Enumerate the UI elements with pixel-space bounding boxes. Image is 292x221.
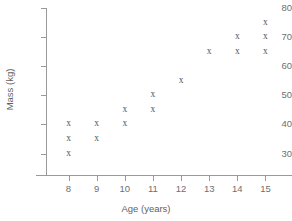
x-tick-14: [237, 176, 238, 181]
data-point: x: [148, 104, 158, 115]
data-point: x: [120, 118, 130, 129]
x-tick-13: [209, 176, 210, 181]
y-tick-label-30: 30: [258, 149, 292, 159]
y-tick-label-40: 40: [258, 119, 292, 129]
data-point: x: [260, 31, 270, 42]
x-axis-title: Age (years): [0, 203, 292, 214]
data-point: x: [232, 31, 242, 42]
y-tick-40: [41, 124, 46, 125]
x-tick-label-8: 8: [58, 183, 80, 194]
x-axis-line: [36, 175, 292, 176]
y-tick-60: [41, 66, 46, 67]
x-tick-12: [181, 176, 182, 181]
x-tick-10: [125, 176, 126, 181]
x-tick-label-11: 11: [142, 183, 164, 194]
x-tick-label-9: 9: [86, 183, 108, 194]
data-point: x: [260, 46, 270, 57]
x-tick-9: [97, 176, 98, 181]
data-point: x: [92, 118, 102, 129]
data-point: x: [64, 133, 74, 144]
y-tick-70: [41, 37, 46, 38]
data-point: x: [64, 148, 74, 159]
y-tick-50: [41, 95, 46, 96]
x-tick-label-13: 13: [198, 183, 220, 194]
x-tick-label-12: 12: [170, 183, 192, 194]
data-point: x: [204, 46, 214, 57]
x-tick-15: [265, 176, 266, 181]
x-tick-label-14: 14: [226, 183, 248, 194]
y-tick-80: [41, 8, 46, 9]
y-tick-label-60: 60: [258, 61, 292, 71]
data-point: x: [148, 89, 158, 100]
data-point: x: [64, 118, 74, 129]
x-tick-8: [69, 176, 70, 181]
y-tick-label-80: 80: [258, 3, 292, 13]
data-point: x: [92, 133, 102, 144]
y-axis-title: Mass (kg): [4, 50, 15, 130]
x-tick-label-15: 15: [254, 183, 276, 194]
y-tick-label-50: 50: [258, 90, 292, 100]
y-tick-30: [41, 154, 46, 155]
data-point: x: [120, 104, 130, 115]
x-tick-11: [153, 176, 154, 181]
data-point: x: [176, 75, 186, 86]
data-point: x: [260, 17, 270, 28]
x-tick-label-10: 10: [114, 183, 136, 194]
y-axis-line: [46, 8, 47, 176]
data-point: x: [232, 46, 242, 57]
scatter-chart: 304050607080 89101112131415 xxxxxxxxxxxx…: [0, 0, 292, 221]
